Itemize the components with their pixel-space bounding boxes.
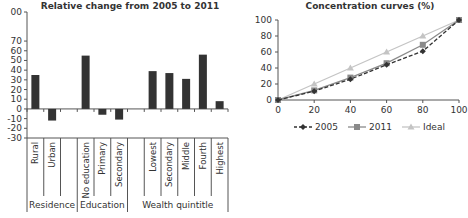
y-tick-label: -20 [7,123,22,133]
group-label: Residence [29,200,75,210]
y-tick-label: 40 [261,63,273,73]
category-label: Secondary [164,142,174,187]
y-tick-label: -30 [7,133,22,143]
category-label: Middle [181,142,191,170]
y-tick-label: 00 [11,7,23,17]
x-tick-label: 0 [275,105,281,115]
y-tick-label: 70 [11,36,23,46]
bar [199,55,207,109]
square-marker [420,42,426,48]
bar [31,75,39,109]
y-tick-label: 50 [11,55,23,65]
y-tick-label: 10 [11,94,23,104]
bar [216,101,224,109]
chart-title: Concentration curves (%) [306,1,435,11]
legend-label: 2011 [369,122,392,132]
category-label: Highest [215,141,225,174]
x-tick-label: 60 [381,105,393,115]
bar-chart: Relative change from 2005 to 20110070605… [0,0,250,218]
line-chart: Concentration curves (%)0204060801000204… [250,0,468,218]
group-label: Wealth quintitle [142,200,214,210]
x-tick-label: 40 [345,105,357,115]
bar [48,109,56,121]
y-tick-label: 60 [261,47,273,57]
category-label: Urban [47,142,57,168]
diamond-marker [420,48,426,54]
category-label: Lowest [148,141,158,171]
group-label: Education [80,200,125,210]
bar [165,73,173,109]
x-tick-label: 100 [450,105,467,115]
bar [182,79,190,109]
y-tick-label: 20 [261,79,273,89]
category-label: Fourth [198,142,208,169]
y-tick-label: 40 [11,65,23,75]
category-label: Rural [30,142,40,164]
bar [149,71,157,109]
y-tick-label: 80 [261,31,273,41]
x-tick-label: 80 [417,105,429,115]
category-label: Secondary [114,142,124,187]
bar [82,56,90,109]
y-tick-label: 20 [11,85,23,95]
x-tick-label: 20 [308,105,320,115]
legend-label: Ideal [423,122,445,132]
bar [115,109,123,120]
y-tick-label: 30 [11,75,23,85]
chart-title: Relative change from 2005 to 2011 [41,1,219,11]
y-tick-label: 0 [16,104,22,114]
legend-label: 2005 [315,122,338,132]
y-tick-label: -10 [7,114,22,124]
series-line-Ideal [278,20,459,100]
diamond-marker [300,124,306,130]
category-label: No education [81,142,91,198]
y-tick-label: 60 [11,46,23,56]
y-tick-label: 0 [266,95,272,105]
category-label: Primary [97,142,107,175]
bar [98,109,106,115]
square-marker [354,124,360,130]
figure: Relative change from 2005 to 20110070605… [0,0,468,218]
y-tick-label: 100 [255,15,272,25]
